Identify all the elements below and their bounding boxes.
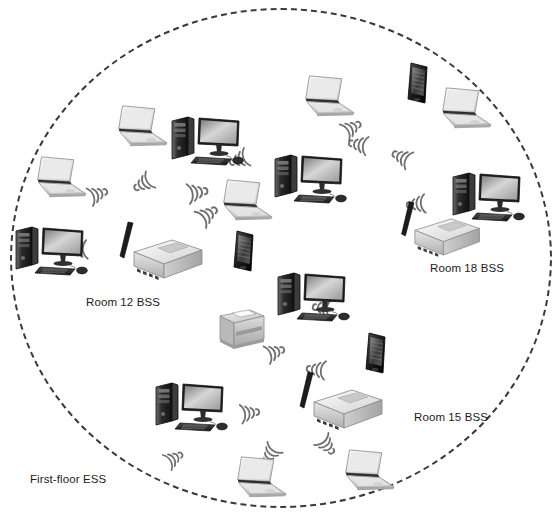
smartphone-icon	[404, 62, 432, 106]
access-point-icon	[292, 368, 388, 440]
desktop-icon	[152, 378, 230, 434]
device-layer	[0, 0, 558, 514]
laptop-icon	[113, 104, 172, 148]
label-first-floor-ess: First-floor ESS	[30, 473, 106, 485]
desktop-icon	[12, 222, 90, 278]
desktop-icon	[274, 268, 352, 324]
desktop-icon	[168, 112, 246, 168]
desktop-icon	[271, 150, 349, 206]
smartphone-icon	[230, 230, 258, 274]
access-point-icon	[112, 218, 208, 290]
laptop-icon	[218, 178, 277, 222]
wireless-signal-icon	[382, 138, 420, 176]
label-room-15-bss: Room 15 BSS	[414, 411, 488, 423]
printer-icon	[210, 306, 268, 354]
label-room-12-bss: Room 12 BSS	[86, 296, 160, 308]
laptop-icon	[437, 86, 496, 130]
wireless-signal-icon	[123, 164, 162, 203]
wireless-signal-icon	[156, 440, 193, 477]
access-point-icon	[394, 198, 485, 266]
laptop-icon	[32, 155, 91, 199]
wireless-signal-icon	[234, 397, 267, 430]
laptop-icon	[232, 455, 291, 499]
laptop-icon	[340, 448, 399, 492]
label-room-18-bss: Room 18 BSS	[430, 262, 504, 274]
network-diagram-canvas: Room 12 BSS Room 18 BSS Room 15 BSS Firs…	[0, 0, 558, 514]
laptop-icon	[300, 74, 359, 118]
